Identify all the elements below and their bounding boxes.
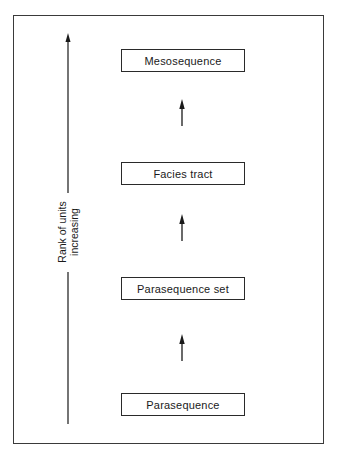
unit-label: Facies tract	[153, 168, 212, 180]
unit-box-parasequence: Parasequence	[121, 393, 245, 416]
unit-label: Parasequence set	[137, 283, 229, 295]
unit-box-parasequence-set: Parasequence set	[121, 277, 245, 300]
unit-label: Mesosequence	[144, 55, 221, 67]
unit-box-facies-tract: Facies tract	[121, 162, 245, 185]
unit-box-mesosequence: Mesosequence	[121, 49, 245, 72]
rank-axis-label-line2: increasing	[68, 201, 80, 262]
rank-axis-label-line1: Rank of units	[56, 201, 68, 262]
rank-axis-label: Rank of units increasing	[56, 201, 80, 262]
unit-label: Parasequence	[146, 399, 219, 411]
